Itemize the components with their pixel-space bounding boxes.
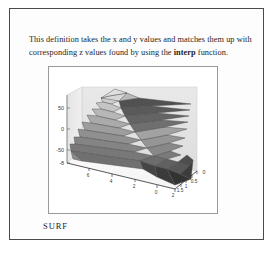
y-tick-0p5: 0.5: [191, 179, 198, 184]
z-tick-bottom: -8: [59, 160, 64, 166]
surf-plot-svg: 50 0 -50 -8 6 4 2: [49, 67, 217, 213]
y-tick-1: 1: [185, 184, 188, 189]
content-frame: This definition takes the x and y values…: [9, 8, 264, 240]
x-tick-6: 6: [87, 173, 90, 178]
x-tick-0: 0: [155, 190, 158, 195]
figure-caption: SURF: [43, 221, 68, 231]
y-tick-2: 2: [172, 193, 175, 198]
interp-keyword: interp: [174, 48, 196, 57]
y-tick-1p5: 1.5: [177, 188, 184, 193]
body-text-suffix: function.: [196, 48, 228, 57]
z-tick-neg50: -50: [56, 147, 64, 153]
x-tick-2: 2: [133, 184, 136, 189]
z-tick-50: 50: [58, 105, 64, 111]
surf-plot-frame: 50 0 -50 -8 6 4 2: [48, 66, 218, 214]
x-tick-4: 4: [110, 179, 113, 184]
page-root: This definition takes the x and y values…: [0, 0, 275, 256]
z-tick-0: 0: [61, 126, 64, 132]
y-tick-0: 0: [203, 169, 206, 175]
figure-container: 50 0 -50 -8 6 4 2: [48, 66, 218, 214]
body-paragraph: This definition takes the x and y values…: [29, 33, 267, 59]
